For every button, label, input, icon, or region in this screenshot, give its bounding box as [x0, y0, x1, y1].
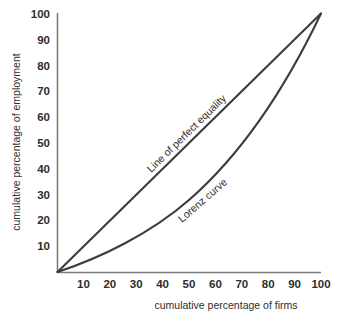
label-line-of-perfect-equality: Line of perfect equality	[144, 91, 228, 174]
y-tick-label-60: 60	[37, 111, 50, 123]
chart-canvas: 100 90 80 70 60 50 40 30 20 10 10 20 30 …	[0, 0, 342, 321]
x-tick-label-20: 20	[103, 278, 116, 290]
x-tick-label-80: 80	[262, 278, 275, 290]
y-tick-label-20: 20	[37, 214, 50, 226]
label-lorenz-curve: Lorenz curve	[176, 175, 230, 224]
y-tick-label-80: 80	[37, 60, 50, 72]
y-tick-label-100: 100	[31, 8, 50, 20]
x-tick-label-40: 40	[156, 278, 169, 290]
x-tick-label-10: 10	[77, 278, 90, 290]
y-axis-title: cumulative percentage of employment	[10, 53, 22, 231]
y-tick-label-50: 50	[37, 137, 50, 149]
x-tick-label-60: 60	[209, 278, 222, 290]
x-tick-label-30: 30	[130, 278, 143, 290]
y-tick-label-90: 90	[37, 34, 50, 46]
x-axis-title: cumulative percentage of firms	[155, 299, 298, 311]
y-tick-label-40: 40	[37, 163, 50, 175]
lorenz-curve-chart: 100 90 80 70 60 50 40 30 20 10 10 20 30 …	[0, 0, 342, 321]
y-tick-label-70: 70	[37, 85, 50, 97]
y-tick-label-30: 30	[37, 189, 50, 201]
y-tick-label-10: 10	[37, 240, 50, 252]
line-of-perfect-equality	[58, 14, 322, 273]
x-tick-label-50: 50	[183, 278, 196, 290]
x-tick-label-70: 70	[235, 278, 248, 290]
x-tick-label-90: 90	[288, 278, 301, 290]
x-tick-label-100: 100	[311, 278, 330, 290]
